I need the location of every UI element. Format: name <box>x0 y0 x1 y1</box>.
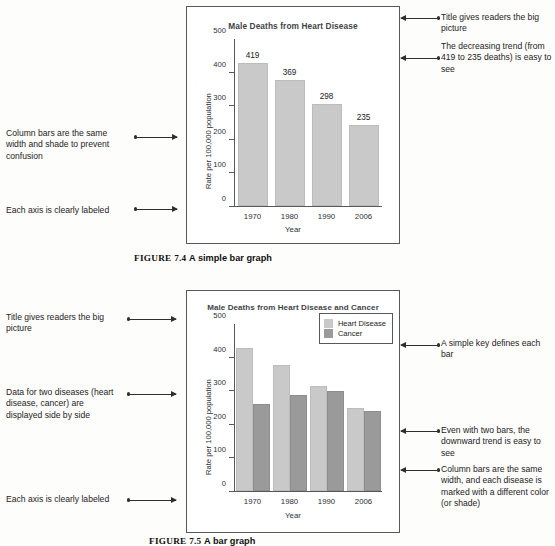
chart-2-bar-cancer-1990 <box>327 391 344 490</box>
arrow-right-icon <box>171 497 177 503</box>
chart-2-bar-cancer-1980 <box>290 395 307 491</box>
chart-2-ytick-label-400: 400 <box>213 344 226 353</box>
chart-1-group-2006: 235 2006 <box>345 39 382 206</box>
chart-1-bar-1980: 369 <box>275 80 305 206</box>
arrow-right-icon <box>171 391 177 397</box>
connector-bars-same-width-color <box>401 467 439 474</box>
figure-1-caption: FIGURE 7.4 A simple bar graph <box>134 253 272 263</box>
connector-dot <box>437 16 440 19</box>
connector-decreasing-trend <box>401 55 439 62</box>
connector-axis-labeled-1 <box>135 206 177 213</box>
chart-1-xtick-1980: 1980 <box>281 212 298 221</box>
connector-dot <box>437 429 440 432</box>
chart-2-group-1980: 1980 <box>271 324 308 491</box>
chart-1-ytick-0 <box>229 206 234 207</box>
connector-dot <box>134 207 137 210</box>
arrow-left-icon <box>400 342 406 348</box>
chart-2-xtick-2006: 2006 <box>355 497 372 506</box>
connector-title-big-picture-2 <box>128 316 176 323</box>
chart-1-xtick-2006: 2006 <box>355 212 372 221</box>
chart-1-plot-area: 0 100 200 300 400 500 419 1970 369 1980 <box>234 39 382 207</box>
chart-1-group-1980: 369 1980 <box>271 39 308 206</box>
arrow-left-icon <box>400 467 406 473</box>
chart-2-ytick-label-300: 300 <box>213 378 226 387</box>
chart-1-ytick-label-100: 100 <box>213 160 226 169</box>
chart-1-group-1990: 298 1990 <box>308 39 345 206</box>
figure-2-panel: Male Deaths from Heart Disease and Cance… <box>186 290 400 533</box>
connector-dot <box>437 468 440 471</box>
chart-1-x-axis <box>234 206 382 207</box>
arrow-left-icon <box>400 428 406 434</box>
connector-dot <box>127 392 130 395</box>
chart-2-ytick-label-500: 500 <box>213 311 226 320</box>
connector-line <box>128 500 176 501</box>
figure-1-caption-text: A simple bar graph <box>189 253 272 263</box>
connector-line <box>135 137 177 138</box>
chart-1-bar-2006: 235 <box>349 125 379 206</box>
figure-2-caption: FIGURE 7.5 A bar graph <box>149 536 255 546</box>
arrow-right-icon <box>172 206 178 212</box>
arrow-left-icon <box>400 15 406 21</box>
chart-2-xtick-1980: 1980 <box>281 497 298 506</box>
chart-1-ytick-label-200: 200 <box>213 126 226 135</box>
chart-1-ytick-label-300: 300 <box>213 93 226 102</box>
arrow-right-icon <box>171 316 177 322</box>
chart-2-bars: 1970 1980 1990 2006 <box>234 324 382 491</box>
chart-2-ytick-label-100: 100 <box>213 445 226 454</box>
connector-line <box>401 345 439 346</box>
connector-title-big-picture-1 <box>401 15 439 22</box>
connector-dot <box>127 498 130 501</box>
annotation-bars-same-width: Column bars are the same width and shade… <box>6 128 128 162</box>
chart-2-xtick-1970: 1970 <box>244 497 261 506</box>
chart-2-ytick-label-200: 200 <box>213 411 226 420</box>
chart-2-bar-heart-1990 <box>310 386 327 491</box>
arrow-right-icon <box>172 134 178 140</box>
chart-2-plot-area: 0 100 200 300 400 500 1970 1980 <box>234 324 382 492</box>
annotation-decreasing-trend: The decreasing trend (from 419 to 235 de… <box>441 41 555 75</box>
chart-1-bar-value-1980: 369 <box>283 68 297 77</box>
connector-line <box>401 431 439 432</box>
chart-1-bar-value-2006: 235 <box>357 113 371 122</box>
connector-line <box>135 209 177 210</box>
connector-simple-key <box>401 342 439 349</box>
connector-dot <box>127 317 130 320</box>
annotation-title-big-picture-1: Title gives readers the big picture <box>441 12 553 35</box>
connector-axis-labeled-2 <box>128 497 176 504</box>
chart-1-ytick-label-0: 0 <box>222 194 226 203</box>
connector-line <box>128 319 176 320</box>
chart-2-bar-heart-1980 <box>273 365 290 491</box>
arrow-left-icon <box>400 55 406 61</box>
figure-1-caption-number: FIGURE 7.4 <box>134 253 187 263</box>
chart-2-bar-heart-2006 <box>347 408 364 491</box>
connector-line <box>401 58 439 59</box>
annotation-simple-key: A simple key defines each bar <box>441 338 551 361</box>
annotation-bars-same-width-color: Column bars are the same width, and each… <box>441 464 555 510</box>
chart-1-bar-value-1970: 419 <box>246 51 260 60</box>
figure-1-panel: Male Deaths from Heart Disease 0 100 200… <box>186 6 400 244</box>
chart-2-ytick-0 <box>229 491 234 492</box>
chart-1-bar-value-1990: 298 <box>320 92 334 101</box>
chart-2-group-2006: 2006 <box>345 324 382 491</box>
chart-1-xtick-1990: 1990 <box>318 212 335 221</box>
chart-1-x-axis-label: Year <box>187 225 399 234</box>
chart-1-xtick-1970: 1970 <box>244 212 261 221</box>
connector-dot <box>437 56 440 59</box>
chart-2-bar-cancer-1970 <box>253 404 270 491</box>
connector-two-diseases <box>128 391 176 398</box>
chart-2-group-1970: 1970 <box>234 324 271 491</box>
annotation-two-diseases: Data for two diseases (heart disease, ca… <box>6 387 118 421</box>
chart-1-ytick-label-500: 500 <box>213 26 226 35</box>
figure-2-caption-number: FIGURE 7.5 <box>149 536 202 546</box>
chart-2-x-axis <box>234 491 382 492</box>
annotation-axis-labeled-2: Each axis is clearly labeled <box>6 494 126 505</box>
figure-2-caption-text: A bar graph <box>204 536 255 546</box>
chart-2-group-1990: 1990 <box>308 324 345 491</box>
chart-1-ytick-label-400: 400 <box>213 59 226 68</box>
chart-1-bar-1970: 419 <box>238 63 268 206</box>
chart-1-group-1970: 419 1970 <box>234 39 271 206</box>
chart-1-bar-1990: 298 <box>312 104 342 206</box>
connector-line <box>401 470 439 471</box>
connector-line <box>401 18 439 19</box>
annotation-axis-labeled-1: Each axis is clearly labeled <box>6 205 132 216</box>
